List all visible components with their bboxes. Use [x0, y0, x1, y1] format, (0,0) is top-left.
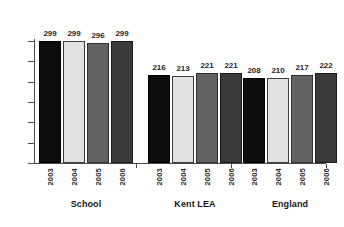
bar[interactable] [243, 78, 265, 163]
x-axis-year-label: 2003 [39, 168, 61, 194]
bar-column: 221 [196, 0, 218, 163]
bar[interactable] [172, 76, 194, 163]
y-axis-tick-mark [28, 41, 34, 42]
bar-column: 216 [148, 0, 170, 163]
x-axis-year-label: 2006 [315, 168, 337, 194]
x-axis-year-label-text: 2006 [227, 168, 236, 186]
x-axis-year-label-text: 2004 [70, 168, 79, 186]
x-axis-year-label-text: 2006 [322, 168, 331, 186]
y-axis-line [34, 39, 35, 164]
x-axis-year-label-text: 2003 [250, 168, 259, 186]
bar[interactable] [111, 41, 133, 163]
bar[interactable] [87, 43, 109, 163]
x-axis-year-label-text: 2004 [274, 168, 283, 186]
x-axis-separator-tick [136, 164, 137, 168]
group-label: School [39, 199, 133, 209]
y-axis-tick-mark [28, 61, 34, 62]
x-axis-year-label: 2004 [63, 168, 85, 194]
y-axis-tick-mark [28, 82, 34, 83]
x-axis-year-label: 2004 [172, 168, 194, 194]
bar[interactable] [291, 75, 313, 163]
bar[interactable] [63, 41, 85, 163]
x-axis-year-label: 2006 [111, 168, 133, 194]
bar-column: 221 [220, 0, 242, 163]
x-axis-year-label: 2006 [220, 168, 242, 194]
bar[interactable] [220, 73, 242, 163]
x-axis-year-label-text: 2005 [298, 168, 307, 186]
bar-column: 296 [87, 0, 109, 163]
bar[interactable] [39, 41, 61, 163]
bar-column: 217 [291, 0, 313, 163]
y-axis-tick-mark [28, 102, 34, 103]
x-axis-year-label-text: 2005 [94, 168, 103, 186]
bar-column: 208 [243, 0, 265, 163]
bar-column: 299 [39, 0, 61, 163]
x-axis-year-label: 2005 [196, 168, 218, 194]
bar-value-label: 222 [311, 61, 341, 70]
bar[interactable] [267, 78, 289, 163]
x-axis-year-label: 2003 [243, 168, 265, 194]
x-axis-year-label: 2005 [291, 168, 313, 194]
group-label: England [243, 199, 337, 209]
x-axis-year-label-text: 2003 [155, 168, 164, 186]
bar-column: 299 [111, 0, 133, 163]
bar-column: 299 [63, 0, 85, 163]
x-axis-year-label-text: 2004 [179, 168, 188, 186]
x-axis-year-label: 2005 [87, 168, 109, 194]
bar[interactable] [315, 73, 337, 163]
bar-column: 222 [315, 0, 337, 163]
x-axis-year-label: 2004 [267, 168, 289, 194]
y-axis-tick-mark [28, 143, 34, 144]
bar-value-label: 299 [107, 29, 137, 38]
y-axis-tick-mark [28, 163, 34, 164]
bar[interactable] [148, 75, 170, 163]
x-axis-year-label-text: 2005 [203, 168, 212, 186]
x-axis-year-label-text: 2003 [46, 168, 55, 186]
group-label: Kent LEA [148, 199, 242, 209]
x-axis-line [34, 163, 326, 164]
bar[interactable] [196, 73, 218, 163]
bar-column: 210 [267, 0, 289, 163]
y-axis-tick-mark [28, 122, 34, 123]
grouped-bar-chart: 050100150200250300 299200329920042962005… [0, 0, 344, 227]
x-axis-year-label: 2003 [148, 168, 170, 194]
bar-column: 213 [172, 0, 194, 163]
x-axis-year-label-text: 2006 [118, 168, 127, 186]
